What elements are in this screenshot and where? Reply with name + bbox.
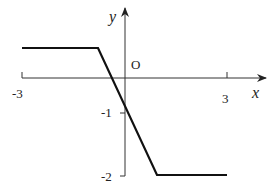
x-tick-3: 3	[222, 91, 229, 106]
y-axis-label: y	[107, 8, 117, 26]
origin-label: O	[131, 57, 140, 72]
y-tick-neg1: -1	[101, 105, 112, 120]
x-axis-label: x	[251, 84, 259, 101]
function-graph: -3 3 -1 -2 O x y	[0, 0, 270, 181]
x-tick-neg3: -3	[12, 86, 23, 101]
y-tick-neg2: -2	[101, 169, 112, 181]
